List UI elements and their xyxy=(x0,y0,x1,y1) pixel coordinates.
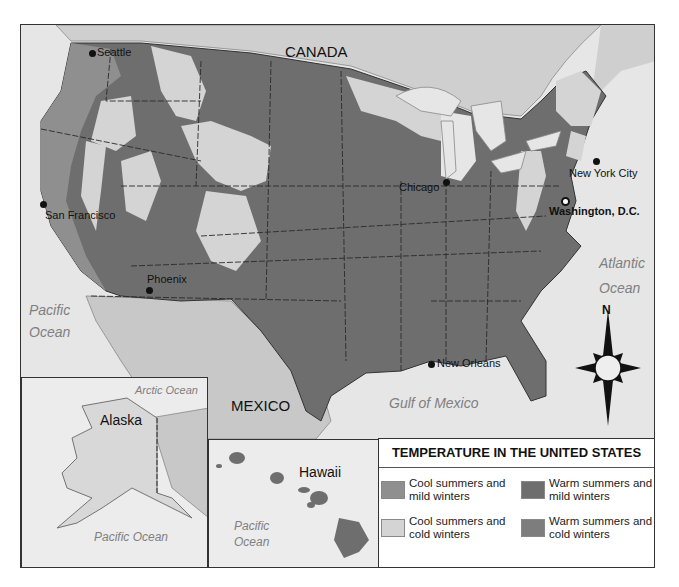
label-pacific-ocean: PacificOcean xyxy=(29,299,70,343)
hawaii-inset: Hawaii PacificOcean xyxy=(208,439,380,568)
city-new-york: New York City xyxy=(569,167,637,179)
legend-swatch xyxy=(381,519,405,537)
legend-item-cool-mild: Cool summers and mild winters xyxy=(381,477,509,503)
label-gulf-of-mexico: Gulf of Mexico xyxy=(389,395,478,411)
label-arctic-ocean: Arctic Ocean xyxy=(135,384,198,396)
label-pacific-ocean-alaska: Pacific Ocean xyxy=(94,530,168,544)
city-dot-chicago xyxy=(443,179,450,186)
label-atlantic-ocean: AtlanticOcean xyxy=(599,251,645,301)
city-san-francisco: San Francisco xyxy=(45,209,115,221)
label-hawaii: Hawaii xyxy=(299,464,341,480)
compass-north-label: N xyxy=(602,303,611,317)
city-new-orleans: New Orleans xyxy=(437,357,501,369)
city-chicago: Chicago xyxy=(399,181,439,193)
compass-rose xyxy=(575,310,641,426)
city-washington: Washington, D.C. xyxy=(549,205,640,217)
label-mexico: MEXICO xyxy=(231,397,290,414)
alaska-inset: Arctic Ocean Alaska Pacific Ocean xyxy=(21,377,208,568)
legend-swatch xyxy=(521,481,545,499)
city-dot-new-york xyxy=(593,158,600,165)
city-seattle: Seattle xyxy=(97,46,131,58)
legend-swatch xyxy=(381,481,405,499)
city-dot-phoenix xyxy=(146,287,153,294)
city-dot-new-orleans xyxy=(428,361,435,368)
map-legend: TEMPERATURE IN THE UNITED STATES Cool su… xyxy=(378,438,655,568)
label-pacific-ocean-hawaii: PacificOcean xyxy=(234,518,269,550)
city-dot-seattle xyxy=(89,50,96,57)
city-dot-san-francisco xyxy=(40,201,47,208)
legend-title: TEMPERATURE IN THE UNITED STATES xyxy=(379,439,654,468)
legend-item-warm-cold: Warm summers and cold winters xyxy=(521,515,659,541)
legend-item-warm-mild: Warm summers and mild winters xyxy=(521,477,659,503)
label-canada: CANADA xyxy=(285,43,348,60)
legend-swatch xyxy=(521,519,545,537)
city-phoenix: Phoenix xyxy=(147,273,187,285)
legend-item-cool-cold: Cool summers and cold winters xyxy=(381,515,509,541)
label-alaska: Alaska xyxy=(100,412,142,428)
